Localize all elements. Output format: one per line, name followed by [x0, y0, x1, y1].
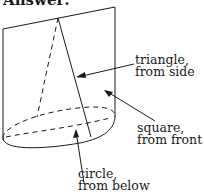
shape-views-diagram: Answer:	[0, 0, 204, 194]
circle-arrowhead	[73, 129, 79, 138]
triangle-arrowhead	[76, 72, 86, 78]
triangle-label-line2: from side	[135, 66, 195, 78]
triangle-arrow	[78, 64, 134, 77]
square-arrowhead	[104, 90, 113, 97]
square-label: square, from front	[137, 122, 202, 146]
cone-hidden-edge	[37, 18, 58, 117]
triangle-label: triangle, from side	[135, 54, 195, 78]
circle-label-line2: from below	[78, 180, 150, 192]
square-label-line2: from front	[137, 134, 202, 146]
circle-label: circle, from below	[78, 168, 150, 192]
diagram-drawing	[0, 0, 204, 194]
square-arrow	[106, 91, 155, 121]
base-ellipse-mid	[6, 118, 110, 137]
top-edge	[3, 7, 115, 29]
cone-front-edge	[58, 18, 91, 137]
base-ellipse-back	[3, 107, 115, 138]
